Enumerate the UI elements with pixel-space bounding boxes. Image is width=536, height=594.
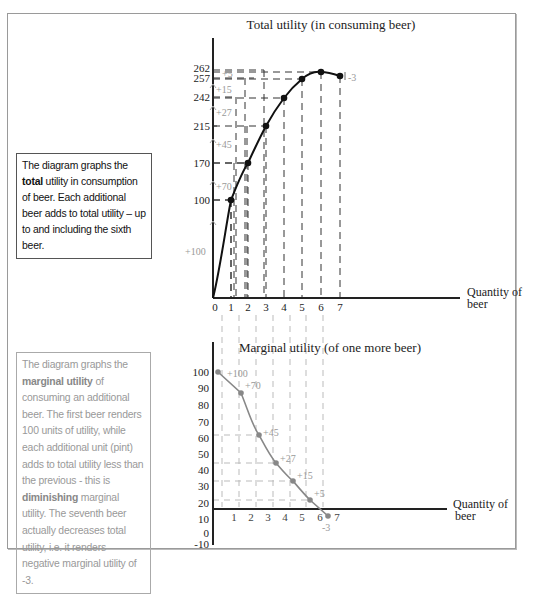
svg-text:40: 40: [198, 464, 210, 476]
svg-text:2: 2: [248, 511, 254, 523]
svg-text:20: 20: [198, 497, 210, 509]
svg-text:262: 262: [194, 62, 211, 74]
svg-text:-3: -3: [348, 72, 356, 83]
svg-text:4: 4: [281, 301, 287, 313]
svg-text:+70: +70: [216, 181, 232, 192]
svg-text:50: 50: [198, 448, 210, 460]
svg-text:90: 90: [198, 382, 210, 394]
svg-text:+27: +27: [280, 453, 296, 464]
svg-text:+5: +5: [314, 488, 325, 499]
svg-text:7: 7: [337, 301, 343, 313]
svg-text:0: 0: [212, 301, 218, 313]
marginal-description: The diagram graphs the marginal utility …: [16, 352, 151, 594]
svg-text:70: 70: [198, 416, 210, 428]
svg-text:beer: beer: [455, 509, 476, 523]
total-utility-chart: Total utility (in consuming beer): [185, 17, 522, 313]
svg-text:3: 3: [265, 511, 271, 523]
svg-text:+100: +100: [227, 368, 248, 379]
svg-text:6: 6: [318, 301, 324, 313]
svg-text:+5: +5: [222, 68, 233, 79]
svg-text:beer: beer: [467, 297, 488, 311]
svg-text:100: 100: [194, 194, 211, 206]
svg-text:Marginal utility (of one more: Marginal utility (of one more beer): [239, 340, 421, 355]
svg-text:100: 100: [193, 366, 210, 378]
svg-text:+45: +45: [216, 139, 232, 150]
svg-text:6: 6: [317, 511, 323, 523]
svg-text:+70: +70: [245, 380, 261, 391]
svg-text:1: 1: [231, 511, 237, 523]
total-title: Total utility (in consuming beer): [247, 17, 416, 32]
svg-text:-3: -3: [322, 522, 330, 533]
svg-text:+15: +15: [216, 84, 232, 95]
svg-text:215: 215: [194, 120, 211, 132]
svg-text:242: 242: [194, 91, 211, 103]
svg-text:+45: +45: [263, 427, 279, 438]
svg-text:5: 5: [299, 511, 305, 523]
svg-text:1: 1: [228, 301, 234, 313]
svg-text:2: 2: [245, 301, 251, 313]
marginal-utility-chart: Marginal utility (of one more beer) 100 …: [193, 315, 509, 550]
svg-text:10: 10: [198, 513, 210, 525]
svg-text:80: 80: [198, 399, 210, 411]
svg-text:+100: +100: [185, 246, 206, 257]
svg-text:60: 60: [198, 432, 210, 444]
svg-text:-10: -10: [194, 538, 209, 550]
svg-text:7: 7: [334, 511, 340, 523]
svg-text:3: 3: [263, 301, 269, 313]
svg-text:5: 5: [299, 301, 305, 313]
svg-text:4: 4: [282, 511, 288, 523]
svg-text:170: 170: [194, 157, 211, 169]
svg-text:+27: +27: [216, 107, 232, 118]
svg-text:+15: +15: [297, 470, 313, 481]
svg-text:30: 30: [198, 480, 210, 492]
total-description: The diagram graphs the total utility in …: [16, 153, 152, 259]
